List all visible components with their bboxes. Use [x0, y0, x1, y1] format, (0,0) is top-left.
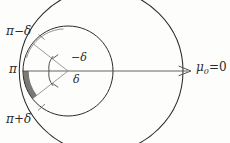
label-negative-delta: −δ: [71, 52, 87, 63]
mu-symbol: μ: [196, 60, 204, 74]
radial-line-pi-minus-delta: [33, 43, 69, 71]
mu-value: 0: [219, 60, 227, 74]
angle-tick-lower: [52, 83, 58, 87]
label-pi-plus-delta: π+δ: [6, 113, 31, 125]
label-pi: π: [9, 63, 17, 75]
label-mu-axis: μ0=0: [196, 61, 227, 76]
label-pi-minus-delta: π−δ: [6, 25, 31, 37]
mu-equals-sign: =: [209, 60, 219, 74]
angle-tick-upper: [52, 55, 58, 59]
label-delta: δ: [73, 74, 80, 85]
radial-line-pi-plus-delta: [33, 71, 69, 99]
outer-circle: [19, 0, 183, 143]
figure-canvas: π−δ π π+δ −δ δ μ0=0: [0, 0, 230, 143]
